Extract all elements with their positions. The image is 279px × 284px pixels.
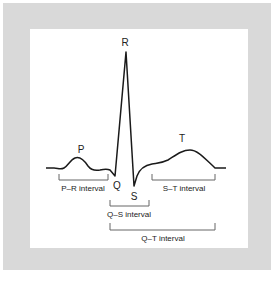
pr-interval-bracket	[59, 174, 108, 180]
qt-interval-label: Q–T interval	[141, 234, 185, 243]
st-interval-bracket	[152, 174, 215, 180]
qt-interval-bracket	[110, 223, 215, 230]
label-q-wave: Q	[113, 180, 121, 191]
st-interval-label: S–T interval	[163, 184, 206, 193]
qs-interval-label: Q–S interval	[107, 210, 151, 219]
label-t-wave: T	[179, 133, 185, 144]
qs-interval-bracket	[110, 200, 149, 206]
ecg-trace	[46, 52, 226, 186]
label-p-wave: P	[78, 144, 85, 155]
ecg-diagram: R P T Q S P–R interval S–T interval Q–S …	[0, 0, 279, 284]
pr-interval-label: P–R interval	[61, 184, 105, 193]
label-r-wave: R	[121, 37, 128, 48]
label-s-wave: S	[131, 191, 138, 202]
